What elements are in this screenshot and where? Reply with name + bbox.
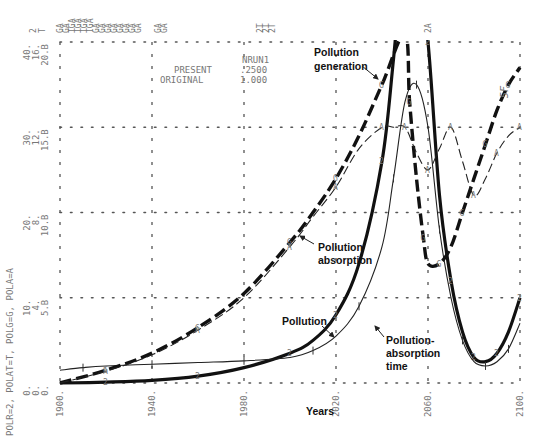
x-axis-label: Years: [306, 405, 334, 417]
x-tick-labels: 1900.1940.1980.2020.2060.2100.: [55, 390, 525, 417]
annotation-text: absorption: [318, 254, 372, 266]
run-info-label-original: ORIGINAL: [160, 75, 203, 85]
y-tick-label: 20.B: [40, 44, 50, 66]
series-marker: 2: [379, 157, 384, 166]
y-tick-label: 5.B: [40, 300, 50, 316]
series-marker: A: [517, 123, 522, 132]
series-pollution: 2222222222: [60, 0, 522, 387]
run-info-label-present: PRESENT: [174, 65, 213, 75]
series-line: [60, 33, 520, 383]
series-marker: A: [402, 123, 407, 132]
series-marker: A: [195, 326, 200, 335]
series-marker: A: [379, 123, 384, 132]
run-info: NRUN1 PRESENT .2500 ORIGINAL 1.000: [160, 55, 269, 85]
series-marker: A: [333, 183, 338, 192]
y-axis-label: POLR=2, POLAT=T, POLG=G, POLA=A: [5, 267, 15, 436]
series-marker: 2: [195, 372, 200, 381]
series-pollution-generation: GGGGGGGGGGG: [60, 33, 520, 383]
annotation-arrow: [300, 236, 314, 244]
series-marker: A: [287, 243, 292, 252]
series-group: 2222222222GGGGGGGGGGGAAAAAAAAAAA: [60, 0, 522, 387]
top-marker: T: [38, 28, 47, 33]
series-marker: A: [471, 191, 476, 200]
series-marker: G: [437, 260, 442, 269]
series-marker: A: [494, 149, 499, 158]
annotation-pollution-absorption-time: Pollution- absorption time: [375, 326, 440, 372]
series-pollution-absorption: AAAAAAAAAAA: [60, 123, 522, 383]
annotation-text: Pollution-: [386, 334, 435, 346]
top-marker: GA: [134, 23, 143, 33]
annotation-text: time: [386, 360, 408, 372]
chart: 0.10.20.30.40.0.4.8.12.16.0.5.B10.B15.B2…: [0, 0, 540, 440]
run-info-value-present: .2500: [240, 65, 267, 75]
annotation-text: absorption: [386, 347, 440, 359]
run-info-header: NRUN1: [242, 55, 269, 65]
top-marker: 2A: [424, 23, 433, 33]
annotation-pollution-generation: Pollution generation: [314, 46, 378, 79]
top-marker: GA: [160, 23, 169, 33]
grid: [60, 42, 520, 387]
run-info-value-original: 1.000: [240, 75, 267, 85]
annotation-text: generation: [314, 60, 368, 72]
series-marker: 2: [425, 38, 430, 47]
annotation-pollution-absorption: Pollution absorption: [300, 236, 372, 266]
series-marker: 2: [103, 378, 108, 387]
series-marker: G: [460, 209, 465, 218]
series-marker: 2: [333, 311, 338, 320]
y-tick-label: 10.B: [40, 215, 50, 237]
series-marker: 2: [494, 349, 499, 358]
corner-note: 5F: [499, 85, 510, 98]
annotation-pollution: Pollution: [282, 315, 334, 337]
x-tick-label: 1980.: [239, 390, 249, 417]
annotation-arrow: [362, 66, 378, 79]
top-marker: 2T: [268, 23, 277, 33]
annotation-text: Pollution: [318, 241, 363, 253]
series-marker: G: [407, 98, 412, 107]
series-line: [60, 125, 520, 383]
series-marker: 2: [517, 294, 522, 303]
series-marker: G: [420, 234, 425, 243]
x-tick-label: 2060.: [423, 390, 433, 417]
series-marker: G: [379, 81, 384, 90]
x-tick-label: 2100.: [515, 390, 525, 417]
annotation-arrow: [375, 326, 384, 337]
y-tick-labels: 0.10.20.30.40.0.4.8.12.16.0.5.B10.B15.B2…: [22, 44, 50, 396]
series-marker: G: [483, 140, 488, 149]
series-marker: A: [425, 166, 430, 175]
annotation-text: Pollution: [314, 46, 359, 58]
y-tick-label: 0.: [40, 385, 50, 396]
top-markers: 2TGAGATGATGATGATGAGAGAGAGAGAGAGAGAGAGA2T…: [29, 18, 433, 33]
x-tick-label: 1940.: [147, 390, 157, 417]
top-marker: 2: [29, 28, 38, 33]
series-marker: A: [448, 123, 453, 132]
y-tick-label: 15.B: [40, 129, 50, 151]
series-marker: A: [103, 367, 108, 376]
x-tick-label: 1900.: [55, 390, 65, 417]
annotation-text: Pollution: [282, 315, 327, 327]
